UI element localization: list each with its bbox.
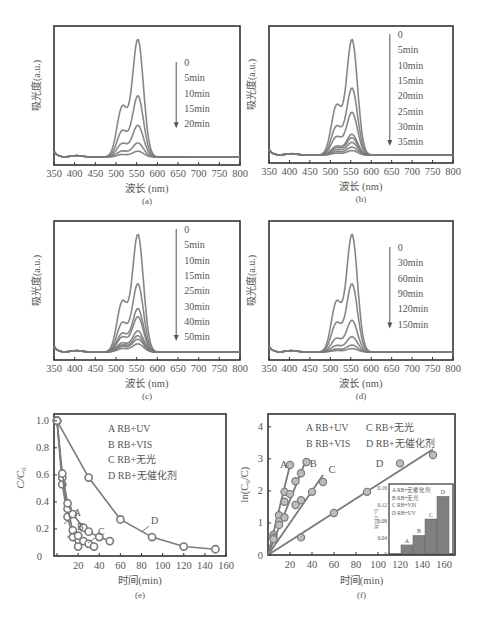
panel-label: (f) bbox=[357, 590, 366, 600]
x-tick-label: 350 bbox=[261, 166, 277, 177]
data-point-D bbox=[330, 509, 337, 516]
data-point-C bbox=[308, 488, 315, 495]
x-tick-label: 750 bbox=[425, 363, 441, 374]
x-tick-label: 120 bbox=[392, 559, 408, 570]
legend-entry: 25min bbox=[398, 106, 424, 117]
y-tick-label: 0.6 bbox=[36, 469, 49, 480]
legend-entry: 15min bbox=[184, 270, 210, 281]
x-tick-label: 20 bbox=[73, 560, 84, 571]
inset-y-tick: 0.16 bbox=[377, 485, 387, 491]
inset-bar-label: D bbox=[441, 489, 446, 495]
legend-entry: 10min bbox=[398, 60, 424, 71]
x-tick-label: 60 bbox=[115, 560, 126, 571]
data-point-D bbox=[148, 533, 155, 540]
arrow-head-icon bbox=[174, 122, 179, 128]
legend-entry: B RB+VIS bbox=[108, 439, 152, 450]
x-tick-label: 350 bbox=[46, 168, 62, 179]
x-tick-label: 650 bbox=[384, 166, 400, 177]
x-tick-label: 400 bbox=[67, 363, 83, 374]
x-tick-label: 700 bbox=[191, 168, 207, 179]
series-callout-D: D bbox=[151, 515, 158, 526]
legend-entry: 5min bbox=[184, 239, 205, 250]
x-tick-label: 750 bbox=[211, 363, 227, 374]
legend-entry: 25min bbox=[184, 285, 210, 296]
data-point-D bbox=[297, 534, 304, 541]
x-tick-label: 700 bbox=[404, 166, 420, 177]
x-tick-label: 650 bbox=[170, 363, 186, 374]
y-tick-label: 1.0 bbox=[36, 415, 49, 426]
legend-entry: 40min bbox=[184, 316, 210, 327]
chart-panel-f: ABCD2040608010012014016001234时间(min)(f)l… bbox=[239, 414, 455, 600]
x-tick-label: 120 bbox=[176, 560, 192, 571]
x-tick-label: 160 bbox=[218, 560, 234, 571]
x-tick-label: 140 bbox=[197, 560, 213, 571]
legend-entry: 10min bbox=[184, 255, 210, 266]
x-axis-label: 波长 (nm) bbox=[339, 377, 383, 390]
x-axis-label: 波长 (nm) bbox=[125, 377, 169, 390]
series-callout-A: A bbox=[280, 459, 288, 470]
y-tick-label: 1 bbox=[258, 517, 263, 528]
x-tick-label: 500 bbox=[108, 363, 124, 374]
x-tick-label: 40 bbox=[307, 559, 318, 570]
y-tick-label: 0.2 bbox=[36, 523, 49, 534]
inset-y-tick: 0.12 bbox=[377, 502, 387, 508]
plot-frame bbox=[269, 221, 453, 360]
legend-entry: 0 bbox=[184, 57, 189, 68]
x-tick-label: 750 bbox=[211, 168, 227, 179]
legend-entry: 0 bbox=[398, 242, 403, 253]
x-tick-label: 800 bbox=[232, 168, 248, 179]
arrow-head-icon bbox=[387, 140, 392, 146]
x-tick-label: 140 bbox=[414, 559, 430, 570]
x-tick-label: 40 bbox=[94, 560, 105, 571]
legend-entry: C RB+无光 bbox=[366, 421, 414, 433]
series-callout-C: C bbox=[329, 464, 336, 475]
y-tick-label: 0.4 bbox=[36, 496, 50, 507]
chart-panel-d: 350400450500550600650700750800波长 (nm)(d)… bbox=[245, 221, 461, 401]
x-axis-label: 时间(min) bbox=[118, 574, 162, 587]
x-tick-label: 600 bbox=[149, 363, 165, 374]
inset-legend-entry: B RB+无光 bbox=[392, 494, 419, 502]
panel-label: (c) bbox=[142, 391, 152, 401]
data-point-B bbox=[292, 478, 299, 485]
legend-entry: 20min bbox=[184, 118, 210, 129]
legend-entry: 15min bbox=[398, 75, 424, 86]
x-tick-label: 650 bbox=[170, 168, 186, 179]
legend-entry: 90min bbox=[398, 288, 424, 299]
data-point-C bbox=[59, 470, 66, 477]
x-tick-label: 550 bbox=[129, 363, 145, 374]
data-point-D bbox=[363, 488, 370, 495]
arrow-head-icon bbox=[387, 323, 392, 329]
data-point-C bbox=[106, 538, 113, 545]
series-callout-C: C bbox=[98, 526, 105, 537]
chart-panel-e: ABCD2040608010012014016000.20.40.60.81.0… bbox=[14, 414, 234, 600]
data-point-C bbox=[297, 497, 304, 504]
y-tick-label: 4 bbox=[258, 421, 264, 432]
legend-entry: 120min bbox=[398, 303, 429, 314]
legend-entry: 0 bbox=[184, 224, 189, 235]
legend-entry: 10min bbox=[184, 88, 210, 99]
inset-bar-D bbox=[437, 496, 449, 554]
x-tick-label: 800 bbox=[445, 363, 461, 374]
legend-entry: 15min bbox=[184, 103, 210, 114]
legend-entry: 60min bbox=[398, 273, 424, 284]
legend-entry: A RB+UV bbox=[108, 423, 151, 434]
data-point-D bbox=[396, 460, 403, 467]
data-point-D bbox=[180, 543, 187, 550]
x-tick-label: 600 bbox=[363, 363, 379, 374]
inset-y-axis-label: k(min⁻¹) bbox=[373, 509, 380, 529]
x-tick-label: 500 bbox=[108, 168, 124, 179]
inset-legend-entry: D RB+UV bbox=[392, 510, 416, 516]
legend-entry: C RB+无光 bbox=[108, 453, 156, 465]
legend-entry: 20min bbox=[398, 90, 424, 101]
data-point-B bbox=[90, 543, 97, 550]
inset-bar-label: A bbox=[405, 538, 410, 544]
figure-canvas: 350400450500550600650700750800波长 (nm)(a)… bbox=[0, 0, 483, 622]
x-tick-label: 100 bbox=[370, 559, 386, 570]
panel-label: (e) bbox=[135, 590, 145, 600]
y-axis-label: 吸光度(a.u.) bbox=[30, 60, 43, 111]
series-callout-A: A bbox=[74, 507, 82, 518]
x-tick-label: 60 bbox=[329, 559, 340, 570]
x-tick-label: 450 bbox=[302, 363, 318, 374]
x-axis-label: 波长 (nm) bbox=[125, 182, 169, 195]
x-tick-label: 350 bbox=[46, 363, 62, 374]
